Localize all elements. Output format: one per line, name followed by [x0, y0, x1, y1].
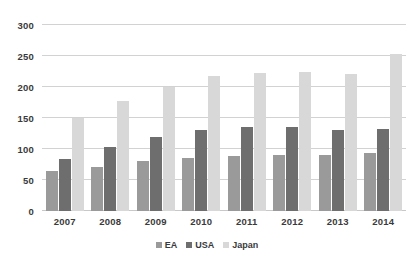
y-tick-label: 150 [18, 113, 34, 124]
bar-usa-2011[interactable] [241, 127, 253, 211]
legend-label: EA [165, 240, 178, 250]
bar-usa-2012[interactable] [286, 127, 298, 211]
bar-group [315, 25, 361, 211]
bar-japan-2007[interactable] [72, 118, 84, 211]
x-tick-label: 2010 [179, 213, 225, 231]
x-tick-label: 2014 [361, 213, 407, 231]
bar-group [42, 25, 88, 211]
bar-japan-2013[interactable] [345, 74, 357, 211]
y-tick-label: 200 [18, 82, 34, 93]
bar-ea-2008[interactable] [91, 167, 103, 211]
bar-ea-2014[interactable] [364, 153, 376, 211]
bar-group [179, 25, 225, 211]
bar-ea-2010[interactable] [182, 158, 194, 211]
legend-item-ea[interactable]: EA [156, 240, 178, 250]
bar-japan-2012[interactable] [299, 72, 311, 212]
legend-item-japan[interactable]: Japan [223, 240, 258, 250]
y-tick-label: 250 [18, 51, 34, 62]
bar-japan-2010[interactable] [208, 76, 220, 211]
x-tick-label: 2011 [224, 213, 270, 231]
bar-ea-2007[interactable] [46, 171, 58, 211]
bars-layer [42, 25, 406, 211]
bar-group [270, 25, 316, 211]
bar-group [133, 25, 179, 211]
bar-usa-2008[interactable] [104, 147, 116, 211]
bar-japan-2008[interactable] [117, 101, 129, 211]
bar-ea-2012[interactable] [273, 155, 285, 211]
bar-chart: 050100150200250300 200720082009201020112… [0, 0, 414, 262]
legend-item-usa[interactable]: USA [186, 240, 214, 250]
x-tick-label: 2009 [133, 213, 179, 231]
plot-area [42, 25, 406, 211]
legend-label: Japan [232, 240, 258, 250]
bar-ea-2013[interactable] [319, 155, 331, 211]
y-tick-label: 50 [23, 175, 34, 186]
bar-japan-2009[interactable] [163, 87, 175, 211]
y-tick-label: 0 [29, 206, 34, 217]
bar-group [88, 25, 134, 211]
y-tick-label: 300 [18, 20, 34, 31]
x-tick-label: 2013 [315, 213, 361, 231]
bar-japan-2011[interactable] [254, 73, 266, 211]
bar-usa-2014[interactable] [377, 129, 389, 211]
bar-usa-2007[interactable] [59, 159, 71, 211]
x-tick-label: 2012 [270, 213, 316, 231]
y-tick-label: 100 [18, 144, 34, 155]
bar-ea-2009[interactable] [137, 161, 149, 211]
bar-group [224, 25, 270, 211]
legend-swatch-icon [223, 242, 229, 248]
x-tick-label: 2007 [42, 213, 88, 231]
x-tick-label: 2008 [88, 213, 134, 231]
chart-legend: EAUSAJapan [0, 240, 414, 250]
legend-swatch-icon [186, 242, 192, 248]
bar-japan-2014[interactable] [390, 54, 402, 211]
bar-usa-2013[interactable] [332, 130, 344, 211]
legend-swatch-icon [156, 242, 162, 248]
bar-group [361, 25, 407, 211]
bar-usa-2010[interactable] [195, 130, 207, 211]
y-axis: 050100150200250300 [0, 25, 38, 211]
x-axis: 20072008200920102011201220132014 [42, 213, 406, 231]
bar-usa-2009[interactable] [150, 137, 162, 211]
bar-ea-2011[interactable] [228, 156, 240, 211]
legend-label: USA [195, 240, 214, 250]
